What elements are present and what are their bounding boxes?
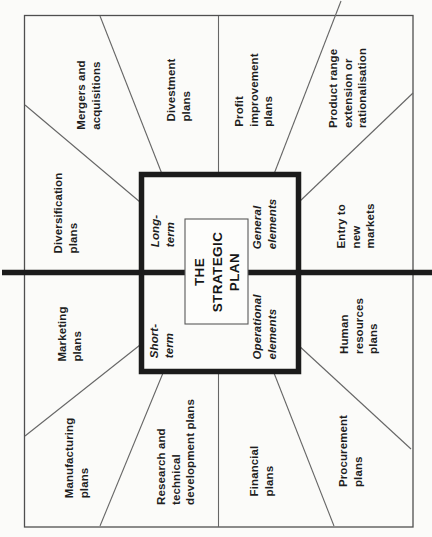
segment-label-marketing-plans: Marketing plans xyxy=(55,306,84,361)
segment-label-mergers-acquisitions: Mergers and acquisitions xyxy=(74,60,103,129)
quadrant-label-operational-elements: Operational elements xyxy=(250,294,279,359)
segment-label-manufacturing-plans: Manufacturing plans xyxy=(62,418,91,499)
segment-label-research-technical-development-plans: Research and technical development plans xyxy=(154,399,198,505)
segment-label-divestment-plans: Divestment plans xyxy=(164,59,193,122)
quadrant-label-long-term: Long- term xyxy=(148,215,177,247)
center-title: THE STRATEGIC PLAN xyxy=(190,231,243,312)
segment-label-diversification-plans: Diversification plans xyxy=(51,173,80,254)
segment-label-profit-improvement-plans: Profit improvement plans xyxy=(232,53,276,126)
segment-label-financial-plans: Financial plans xyxy=(247,446,276,497)
segment-label-human-resources-plans: Human resources plans xyxy=(337,298,381,354)
divider-mergers-divestment xyxy=(100,16,162,174)
quadrant-label-general-elements: General elements xyxy=(250,199,279,250)
segment-label-procurement-plans: Procurement plans xyxy=(336,415,365,487)
strategic-plan-diagram: THE STRATEGIC PLAN Long- term General el… xyxy=(0,0,432,537)
segment-label-entry-new-markets: Entry to new markets xyxy=(334,204,378,249)
divider-financial-procurement xyxy=(274,373,334,526)
segment-label-product-range: Product range extension or rationalisati… xyxy=(326,48,370,128)
quadrant-label-short-term: Short- term xyxy=(147,324,176,358)
